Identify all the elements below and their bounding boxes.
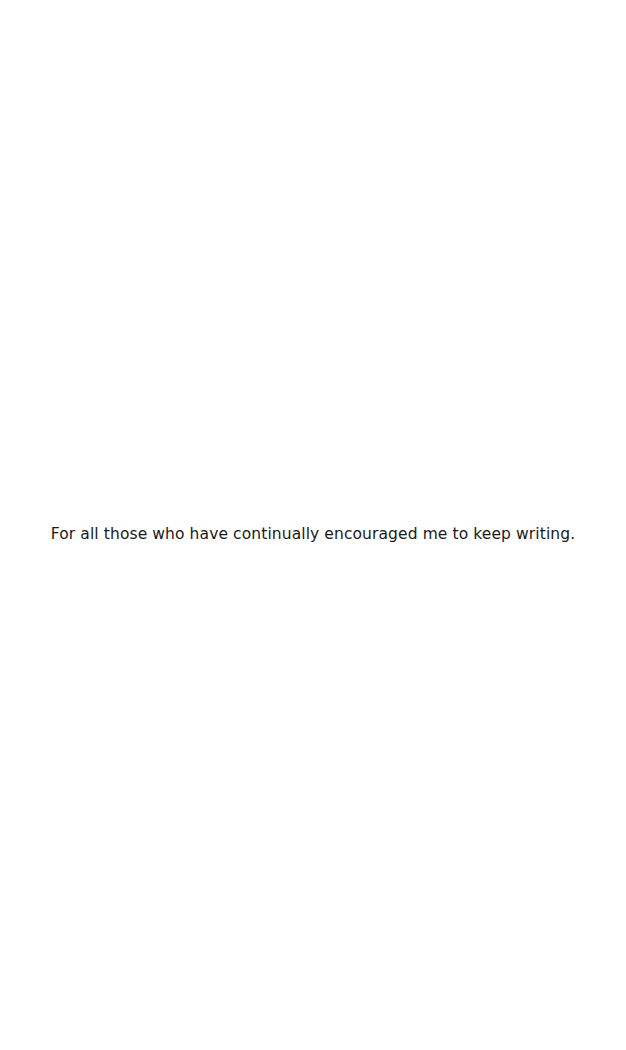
book-page: For all those who have continually encou… (0, 0, 626, 1050)
dedication-text: For all those who have continually encou… (0, 525, 626, 543)
